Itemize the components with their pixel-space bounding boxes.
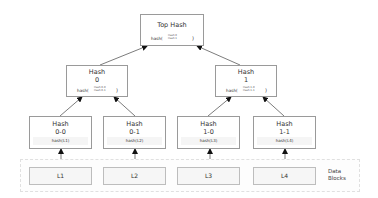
leaf-hash: hash(L4): [257, 137, 312, 145]
data-blocks-label-line2: Blocks: [328, 175, 346, 182]
data-block-l1: L1: [29, 167, 92, 185]
hash-close: ): [192, 35, 194, 41]
hash-arg: Hash 0-1: [94, 89, 106, 92]
node-title: Hash: [30, 120, 91, 128]
top-hash-title: Top Hash: [141, 21, 203, 29]
edge-leaf0-mid0: [60, 97, 82, 116]
hash-args: Hash 0-0 Hash 0-1: [94, 86, 106, 92]
hash-1-1-node: Hash 1-1 hash(L4): [253, 116, 316, 149]
edge-mid1-top: [197, 46, 240, 65]
node-sub: 0-0: [30, 128, 91, 136]
hash-arg: Hash 1: [168, 37, 177, 40]
node-title: Hash: [67, 68, 127, 76]
hash-fn: hash(: [77, 88, 89, 93]
top-hash-node: Top Hash hash( Hash 0 Hash 1 ): [140, 14, 204, 46]
hash-arg: Hash 1-1: [243, 89, 255, 92]
node-title: Hash: [216, 68, 276, 76]
data-block-l2: L2: [103, 167, 166, 185]
leaf-hash: hash(L3): [181, 137, 236, 145]
hash-close: ): [116, 87, 118, 93]
data-block-l4: L4: [253, 167, 316, 185]
node-title: Hash: [178, 120, 239, 128]
hash-1-0-node: Hash 1-0 hash(L3): [177, 116, 240, 149]
edge-leaf2-mid1: [208, 97, 231, 116]
data-blocks-label-line1: Data: [328, 168, 346, 175]
hash-fn: hash(: [226, 88, 238, 93]
node-title: Hash: [104, 120, 165, 128]
node-sub: 0-1: [104, 128, 165, 136]
node-sub: 1-0: [178, 128, 239, 136]
data-blocks-label: Data Blocks: [328, 168, 346, 182]
node-sub: 0: [67, 76, 127, 84]
node-sub: 1: [216, 76, 276, 84]
hash-args: Hash 0 Hash 1: [168, 34, 177, 40]
hash-close: ): [265, 87, 267, 93]
hash-0-0-node: Hash 0-0 hash(L1): [29, 116, 92, 149]
leaf-hash: hash(L1): [33, 137, 88, 145]
hash-0-node: Hash 0 hash( Hash 0-0 Hash 0-1 ): [66, 65, 128, 97]
node-sub: 1-1: [254, 128, 315, 136]
data-block-l3: L3: [177, 167, 240, 185]
hash-args: Hash 1-0 Hash 1-1: [243, 86, 255, 92]
hash-0-1-node: Hash 0-1 hash(L2): [103, 116, 166, 149]
hash-1-node: Hash 1 hash( Hash 1-0 Hash 1-1 ): [215, 65, 277, 97]
edge-mid0-top: [100, 46, 147, 65]
edge-leaf1-mid0: [114, 97, 135, 116]
hash-fn: hash(: [151, 36, 163, 41]
leaf-hash: hash(L2): [107, 137, 162, 145]
edge-leaf3-mid1: [263, 97, 284, 116]
node-title: Hash: [254, 120, 315, 128]
